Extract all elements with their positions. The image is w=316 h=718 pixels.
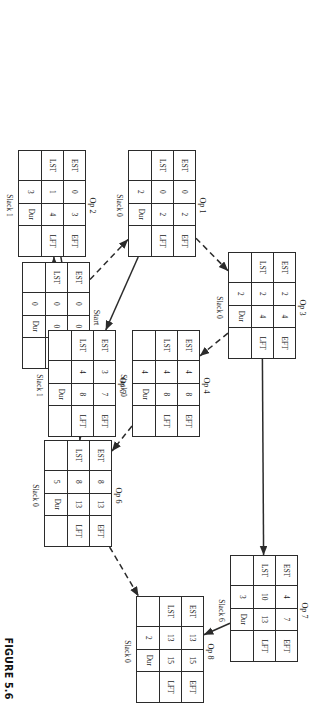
node-op1-est-value: 0: [173, 181, 195, 204]
node-op6-eft-label: EFT: [89, 516, 111, 546]
node-op3-est-label: EST: [273, 253, 295, 283]
node-op2-lst-label: LST: [41, 151, 63, 181]
node-op1-lst-label: LST: [151, 151, 173, 181]
node-op2-spacer-left: [19, 151, 41, 181]
node-op7[interactable]: EST47EFTLST1013LFT3Dur: [230, 555, 298, 662]
node-op6-dur-value: 5: [45, 471, 67, 494]
node-op6-eft-value: 13: [89, 494, 111, 517]
edge-op6-to-op8: [110, 547, 139, 596]
node-op4[interactable]: EST48EFTLST48LFT4Dur: [132, 330, 200, 437]
node-op4-spacer-left: [133, 331, 155, 361]
node-op6-lft-value: 13: [67, 494, 89, 517]
node-op1[interactable]: EST02EFTLST02LFT2Dur: [128, 150, 196, 257]
node-op5-lst-value: 4: [71, 361, 93, 384]
node-op2-lft-label: LFT: [41, 226, 63, 256]
node-op8-est-label: EST: [181, 597, 203, 627]
node-op4-est-label: EST: [177, 331, 199, 361]
node-op5-spacer-left: [49, 331, 71, 361]
node-op1-eft-label: EFT: [173, 226, 195, 256]
node-op5-dur-label: Dur: [49, 384, 71, 407]
node-op4-title: Op 4: [202, 332, 211, 439]
node-op3-eft-value: 4: [273, 306, 295, 329]
node-op8-slack-label: Slack 0: [123, 598, 132, 705]
network-diagram-canvas: EST00EFTLST00LFT0DurStartEST02EFTLST02LF…: [0, 0, 316, 718]
node-op2-dur-value: 3: [19, 181, 41, 204]
node-op5-spacer-right: [49, 406, 71, 436]
node-op1-lst-value: 0: [151, 181, 173, 204]
node-op8-title: Op 8: [206, 598, 215, 705]
node-op3-est-value: 2: [273, 283, 295, 306]
node-op1-est-label: EST: [173, 151, 195, 181]
node-start-est-value: 0: [67, 293, 89, 316]
node-op7-eft-value: 7: [275, 609, 297, 632]
node-op5-est-label: EST: [93, 331, 115, 361]
node-op4-est-value: 4: [177, 361, 199, 384]
node-op6-lst-label: LST: [67, 441, 89, 471]
node-op2-lst-value: 1: [41, 181, 63, 204]
node-op1-spacer-right: [129, 226, 151, 256]
node-op2-est-label: EST: [63, 151, 85, 181]
node-op8-spacer-right: [137, 672, 159, 702]
node-op7-spacer-left: [231, 556, 253, 586]
node-op5-lst-label: LST: [71, 331, 93, 361]
node-op6-est-label: EST: [89, 441, 111, 471]
node-start-est-label: EST: [67, 263, 89, 293]
node-op7-lft-value: 13: [253, 609, 275, 632]
node-op6-lft-label: LFT: [67, 516, 89, 546]
node-op1-dur-value: 2: [129, 181, 151, 204]
node-op6-est-value: 8: [89, 471, 111, 494]
node-op5[interactable]: EST37EFTLST48LFTDur: [48, 330, 116, 437]
figure-page: EST00EFTLST00LFT0DurStartEST02EFTLST02LF…: [0, 0, 316, 718]
node-op7-title: Op 7: [300, 557, 309, 664]
node-op8-lft-value: 15: [159, 650, 181, 673]
node-op3-slack-label: Slack 0: [215, 254, 224, 361]
node-op8[interactable]: EST1315EFTLST1315LFT2Dur: [136, 596, 204, 703]
node-op5-lft-value: 8: [71, 384, 93, 407]
node-op6-slack-label: Slack 0: [31, 442, 40, 549]
node-op4-lst-value: 4: [155, 361, 177, 384]
node-op8-est-value: 13: [181, 627, 203, 650]
node-op3-lst-value: 2: [251, 283, 273, 306]
node-op2-title: Op 2: [88, 152, 97, 259]
node-op6-spacer-right: [45, 516, 67, 546]
node-start-lst-value: 0: [45, 293, 67, 316]
node-start-dur-value: 0: [23, 293, 45, 316]
node-op8-dur-value: 2: [137, 627, 159, 650]
node-op7-eft-label: EFT: [275, 631, 297, 661]
node-op5-lft-label: LFT: [71, 406, 93, 436]
node-op5-dur-value: [49, 361, 71, 384]
node-op1-eft-value: 2: [173, 204, 195, 227]
node-op1-lft-value: 2: [151, 204, 173, 227]
node-op5-slack-label: Slack 1: [35, 332, 44, 439]
node-op2-est-value: 0: [63, 181, 85, 204]
node-op2-dur-label: Dur: [19, 204, 41, 227]
node-op3-lft-value: 4: [251, 306, 273, 329]
node-start-lst-label: LST: [45, 263, 67, 293]
node-op7-est-value: 4: [275, 586, 297, 609]
node-op4-eft-value: 8: [177, 384, 199, 407]
node-op8-lft-label: LFT: [159, 672, 181, 702]
node-op2[interactable]: EST03EFTLST14LFT3Dur: [18, 150, 86, 257]
node-op7-slack-label: Slack 6: [217, 557, 226, 664]
node-op4-lft-label: LFT: [155, 406, 177, 436]
node-op7-dur-value: 3: [231, 586, 253, 609]
node-op2-slack-label: Slack 1: [5, 152, 14, 259]
node-op2-eft-value: 3: [63, 204, 85, 227]
node-op5-title: Op 5: [118, 332, 127, 439]
node-op6-lst-value: 8: [67, 471, 89, 494]
node-op4-lst-label: LST: [155, 331, 177, 361]
node-op7-est-label: EST: [275, 556, 297, 586]
node-op2-eft-label: EFT: [63, 226, 85, 256]
node-op1-title: Op 1: [198, 152, 207, 259]
edge-op1-to-op5: [106, 257, 138, 330]
node-op3[interactable]: EST24EFTLST24LFT2Dur: [228, 252, 296, 359]
node-op8-spacer-left: [137, 597, 159, 627]
node-op7-lst-value: 10: [253, 586, 275, 609]
node-op7-lft-label: LFT: [253, 631, 275, 661]
node-op6-dur-label: Dur: [45, 494, 67, 517]
node-op6[interactable]: EST813EFTLST813LFT5Dur: [44, 440, 112, 547]
node-op4-lft-value: 8: [155, 384, 177, 407]
node-op3-dur-value: 2: [229, 283, 251, 306]
node-op1-slack-label: Slack 0: [115, 152, 124, 259]
node-op5-eft-value: 7: [93, 384, 115, 407]
